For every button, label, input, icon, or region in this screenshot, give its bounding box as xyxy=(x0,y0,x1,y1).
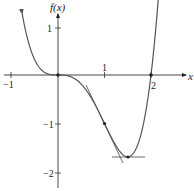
function-curve xyxy=(22,0,163,157)
x-axis-label: x xyxy=(187,70,193,82)
y-axis-label: f(x) xyxy=(50,1,66,14)
function-graph: f(x) x −1 1 2 1 −1 −2 xyxy=(0,0,194,191)
x-tick-label-2: 2 xyxy=(151,80,156,91)
y-tick-label-1: 1 xyxy=(47,23,52,34)
x-tick-label-1: 1 xyxy=(102,62,107,73)
marked-points xyxy=(56,73,153,158)
y-tick-label-neg2: −2 xyxy=(43,168,54,179)
x-tick-label-neg1: −1 xyxy=(3,79,14,90)
y-tick-label-neg1: −1 xyxy=(43,119,54,130)
